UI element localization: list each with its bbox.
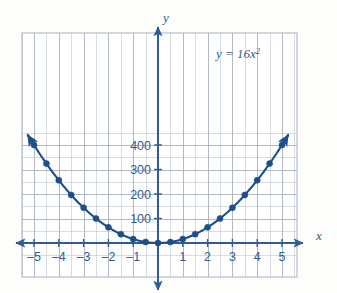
data-point bbox=[93, 216, 99, 222]
data-point bbox=[130, 236, 136, 242]
data-point bbox=[180, 236, 186, 242]
x-tick-label: –5 bbox=[27, 250, 41, 264]
x-tick-label: 2 bbox=[204, 250, 211, 264]
x-tick-label: 1 bbox=[179, 250, 186, 264]
data-point bbox=[279, 142, 285, 148]
data-point bbox=[217, 216, 223, 222]
data-point bbox=[242, 192, 248, 198]
x-tick-label: –3 bbox=[77, 250, 91, 264]
data-point bbox=[229, 205, 235, 211]
data-point bbox=[56, 177, 62, 183]
x-tick-label: –1 bbox=[126, 250, 140, 264]
data-point bbox=[167, 239, 173, 245]
x-tick-label: 4 bbox=[254, 250, 261, 264]
data-point bbox=[267, 161, 273, 167]
data-point bbox=[81, 205, 87, 211]
y-tick-label: 200 bbox=[130, 188, 151, 202]
x-tick-label: 5 bbox=[279, 250, 286, 264]
x-tick-label: –4 bbox=[52, 250, 66, 264]
x-tick-label: 3 bbox=[229, 250, 236, 264]
y-axis-label: y bbox=[161, 10, 169, 25]
x-axis-label: x bbox=[315, 228, 322, 243]
data-point bbox=[155, 240, 161, 246]
y-tick-label: 100 bbox=[130, 212, 151, 226]
data-point bbox=[31, 142, 37, 148]
equation-text: y = 16x bbox=[214, 46, 256, 61]
data-point bbox=[118, 231, 124, 237]
data-point bbox=[192, 231, 198, 237]
data-point bbox=[105, 224, 111, 230]
y-tick-label: 400 bbox=[130, 139, 151, 153]
data-point bbox=[254, 177, 260, 183]
data-point bbox=[68, 192, 74, 198]
parabola-plot: –5–4–3–2–112345 100200300400 y x y = 16x… bbox=[0, 0, 337, 293]
x-tick-label: –2 bbox=[101, 250, 115, 264]
y-tick-label: 300 bbox=[130, 163, 151, 177]
data-point bbox=[205, 224, 211, 230]
data-point bbox=[143, 239, 149, 245]
equation-label: y = 16x2 bbox=[214, 46, 261, 62]
chart-figure: –5–4–3–2–112345 100200300400 y x y = 16x… bbox=[0, 0, 337, 293]
data-point bbox=[43, 161, 49, 167]
